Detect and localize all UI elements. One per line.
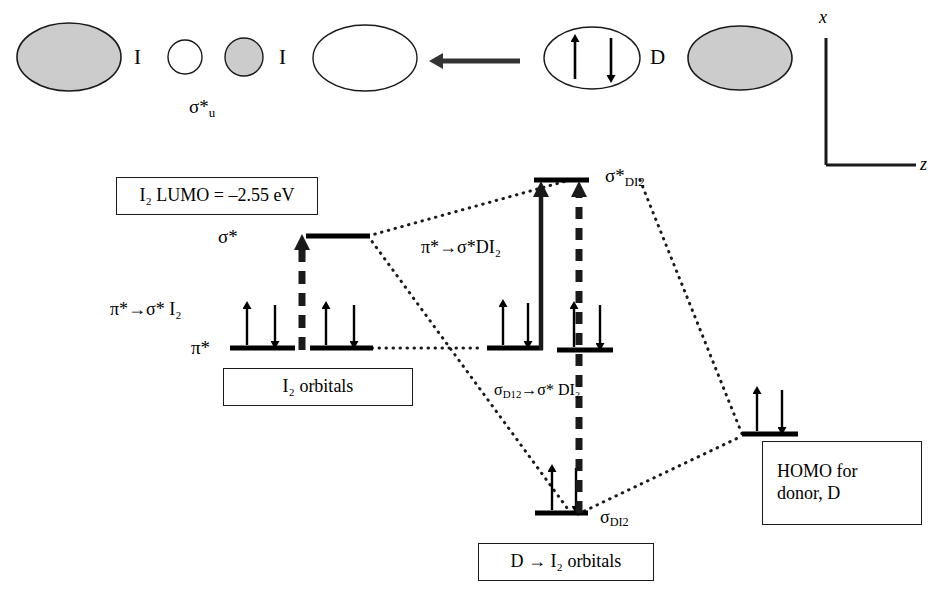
energy-levels [230,180,798,513]
homo-donor-box: HOMO for donor, D [762,441,922,525]
sigma-star-di2-sub: DI2 [625,174,645,189]
sigma-star-level-label: σ* [218,227,238,246]
orbital-lobe-shaded-right [688,26,792,90]
orbital-lobe-small-shaded [225,38,263,76]
atom-label-D: D [650,47,665,68]
orbital-lobe-donor [544,27,640,89]
transition-sigma-main: σ [494,381,503,398]
transition-sigma-rest: →σ* DI₂ [521,381,580,398]
sigma-star-di2-main: σ* [605,165,625,186]
correlation-sigma-star-di2-to-homo [640,180,742,434]
i2-orbitals-text: I₂ orbitals [283,376,354,398]
sigma-di2-main: σ [600,507,610,527]
correlation-lines [368,180,742,514]
lumo-value-text: I₂ LUMO = –2.55 eV [140,185,295,207]
homo-donor-line2: donor, D [777,483,840,505]
sigma-star-u-sub: u [209,105,215,120]
transition-sigma-sub: D12 [503,388,522,400]
transition-label-pi-to-sigma-i2: π*→σ* I₂ [110,300,182,318]
axis-indicator [826,38,916,165]
axis-label-z: z [920,155,927,173]
sigma-star-u-main: σ* [189,96,209,117]
atom-label-I-left: I [134,47,141,68]
sigma-di2-label: σDI2 [600,508,629,529]
lumo-value-box: I₂ LUMO = –2.55 eV [116,177,318,215]
axis-label-x: x [819,8,827,26]
correlation-sigma-di2-to-homo [578,436,742,514]
pi-star-level-label: π* [191,338,210,357]
sigma-star-u-label: σ*u [189,97,215,120]
homo-donor-line1: HOMO for [777,461,858,483]
sigma-di2-sub: DI2 [610,515,629,529]
transition-label-sigma-to-sigma-star-di2: σD12→σ* DI₂ [494,382,580,400]
orbital-lobe-I-left [17,23,121,91]
i2-orbitals-box: I₂ orbitals [223,368,413,406]
d-i2-orbitals-text: D → I₂ orbitals [511,551,622,573]
orbital-lobe-acceptor-white [313,25,417,91]
transition-label-pi-to-sigma-di2: π*→σ*DI₂ [421,238,501,256]
electron-spin-pairs [247,303,782,510]
orbital-lobe-small-white [168,40,202,74]
figure-canvas: I I D σ*u x z I₂ LUMO = –2.55 eV σ* π*→σ… [0,0,938,612]
d-i2-orbitals-box: D → I₂ orbitals [478,543,654,581]
sigma-star-di2-label: σ*DI2 [605,166,645,189]
atom-label-I-right: I [279,47,286,68]
